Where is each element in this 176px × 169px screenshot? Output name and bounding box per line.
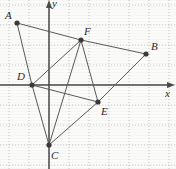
plotted-points [14,20,148,147]
edge-f-b [81,40,146,54]
label-x-axis: x [165,88,170,99]
edge-c-f [49,40,81,145]
label-point-f: F [84,26,91,37]
point-d [29,82,34,87]
edge-d-c [32,85,49,145]
point-e [95,99,100,104]
label-y-axis: y [52,0,57,9]
label-point-a: A [5,10,12,21]
point-c [46,142,51,147]
label-point-c: C [51,150,58,161]
label-point-e: E [101,106,108,117]
label-point-b: B [151,41,158,52]
edge-e-b [98,54,146,102]
point-b [143,51,148,56]
coordinate-plane-figure: ABCDEFxy [0,0,176,169]
edge-c-e [49,102,98,145]
point-f [78,37,83,42]
point-a [14,20,19,25]
edge-f-e [81,40,98,102]
label-point-d: D [17,71,25,82]
